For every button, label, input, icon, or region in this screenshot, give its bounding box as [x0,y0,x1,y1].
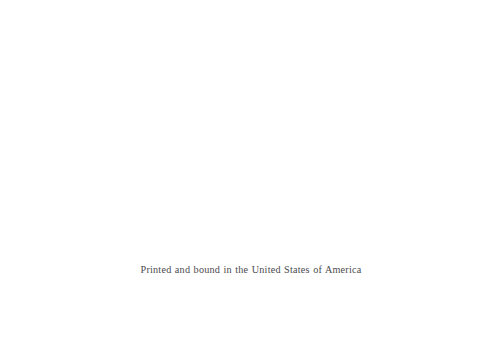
page-blank-area-bottom [0,275,485,351]
page-blank-area-top [0,0,485,258]
scanned-page: Printed and bound in the United States o… [0,0,485,351]
